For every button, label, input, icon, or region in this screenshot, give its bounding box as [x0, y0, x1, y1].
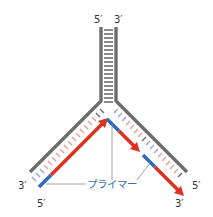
- right-arm-rungs: [114, 109, 182, 177]
- top-left-5prime-label: 5′: [94, 15, 103, 25]
- top-right-3prime-label: 3′: [114, 15, 123, 25]
- left-primer-5prime-label: 5′: [37, 199, 46, 209]
- right-strand-3prime-label: 3′: [175, 199, 184, 209]
- left-template-strand: [30, 27, 101, 172]
- right-primer-2: [143, 155, 155, 167]
- right-arm-5prime-label: 5′: [192, 181, 201, 191]
- vertical-ladder-rungs: [104, 30, 113, 102]
- left-arm-rungs: [32, 109, 104, 181]
- left-primer: [39, 175, 51, 187]
- right-template-strand: [116, 27, 187, 172]
- primer-label: プライマー: [87, 179, 137, 190]
- right-primer-1: [107, 119, 119, 131]
- left-arm-3prime-label: 3′: [18, 181, 27, 191]
- right-new-strand-fragment-2: [155, 167, 178, 190]
- left-new-strand: [51, 123, 103, 175]
- right-new-strand-fragment-1: [119, 131, 134, 146]
